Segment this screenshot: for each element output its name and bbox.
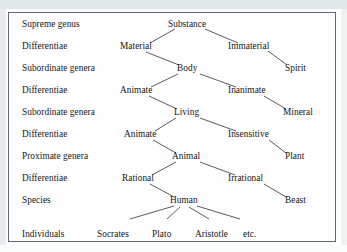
tree-node-inanimate: Inanimate bbox=[228, 85, 266, 96]
tree-node-animal: Animal bbox=[172, 151, 200, 162]
row-label-species-8: Species bbox=[22, 195, 51, 206]
row-label-differentiae-5: Differentiae bbox=[22, 129, 67, 140]
tree-node-insensitive: Insensitive bbox=[228, 129, 269, 140]
tree-node-mineral: Mineral bbox=[283, 107, 313, 118]
tree-node-immaterial: Immaterial bbox=[228, 41, 269, 52]
tree-node-body: Body bbox=[177, 63, 197, 74]
tree-node-layer: Supreme genusDifferentiaeSubordinate gen… bbox=[0, 0, 347, 252]
row-label-individuals-9: Individuals bbox=[22, 229, 64, 240]
row-label-differentiae-1: Differentiae bbox=[22, 41, 67, 52]
tree-node-human: Human bbox=[170, 195, 198, 206]
individual-plato: Plato bbox=[152, 229, 171, 240]
tree-node-animate-2: Animate bbox=[124, 129, 156, 140]
row-label-differentiae-3: Differentiae bbox=[22, 85, 67, 96]
row-label-supreme-genus-0: Supreme genus bbox=[22, 19, 80, 30]
tree-node-beast: Beast bbox=[285, 195, 306, 206]
row-label-differentiae-7: Differentiae bbox=[22, 173, 67, 184]
individual-socrates: Socrates bbox=[97, 229, 129, 240]
tree-node-rational: Rational bbox=[122, 173, 154, 184]
tree-node-living: Living bbox=[174, 107, 199, 118]
tree-node-plant: Plant bbox=[285, 151, 304, 162]
tree-node-irrational: Irrational bbox=[228, 173, 263, 184]
tree-node-material: Material bbox=[120, 41, 152, 52]
row-label-proximate-genera-6: Proximate genera bbox=[22, 151, 88, 162]
row-label-subordinate-genera-2: Subordinate genera bbox=[22, 63, 95, 74]
row-label-subordinate-genera-4: Subordinate genera bbox=[22, 107, 95, 118]
tree-node-animate-1: Animate bbox=[120, 85, 152, 96]
figure-page: Supreme genusDifferentiaeSubordinate gen… bbox=[0, 0, 347, 252]
tree-node-substance: Substance bbox=[168, 19, 206, 30]
individual-etc: etc. bbox=[243, 229, 256, 240]
tree-node-spirit: Spirit bbox=[285, 63, 306, 74]
individual-aristotle: Aristotle bbox=[195, 229, 228, 240]
